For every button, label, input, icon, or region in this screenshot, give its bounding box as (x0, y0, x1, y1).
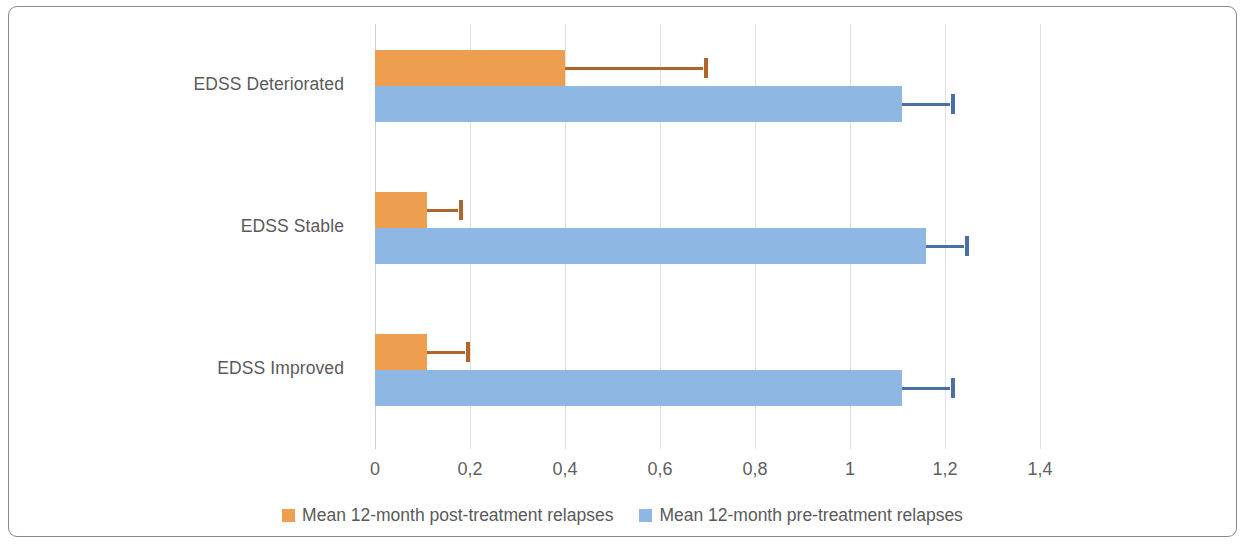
error-bar-stem (926, 245, 964, 248)
legend-swatch-icon-pre-treatment (639, 509, 652, 522)
error-bar-stem (427, 209, 458, 212)
error-bar-stem (427, 351, 465, 354)
error-bar-pre-treatment-edss-stable (926, 228, 969, 264)
legend-item-pre-treatment[interactable]: Mean 12-month pre-treatment relapses (639, 505, 962, 526)
error-bar-pre-treatment-edss-deteriorated (902, 86, 954, 122)
error-bar-cap (466, 342, 470, 362)
gridline-1-4 (1040, 24, 1041, 449)
x-tick-1-4: 1,4 (1027, 459, 1052, 480)
bar-post-treatment-edss-improved[interactable] (375, 334, 427, 370)
legend-label-post-treatment: Mean 12-month post-treatment relapses (302, 505, 613, 526)
bar-post-treatment-edss-deteriorated[interactable] (375, 50, 565, 86)
category-axis: EDSS Deteriorated EDSS Stable EDSS Impro… (0, 24, 360, 449)
bar-pre-treatment-edss-improved[interactable] (375, 370, 902, 406)
error-bar-pre-treatment-edss-improved (902, 370, 954, 406)
error-bar-cap (965, 236, 969, 256)
error-bar-cap (951, 94, 955, 114)
error-bar-post-treatment-edss-stable (427, 192, 463, 228)
bar-pre-treatment-edss-deteriorated[interactable] (375, 86, 902, 122)
category-label-edss-deteriorated: EDSS Deteriorated (193, 74, 344, 95)
category-label-edss-improved: EDSS Improved (217, 358, 344, 379)
legend-item-post-treatment[interactable]: Mean 12-month post-treatment relapses (282, 505, 613, 526)
x-tick-0: 0 (370, 459, 380, 480)
bar-post-treatment-edss-stable[interactable] (375, 192, 427, 228)
x-tick-0-8: 0,8 (742, 459, 767, 480)
chart-figure: EDSS Deteriorated EDSS Stable EDSS Impro… (0, 0, 1245, 544)
x-tick-0-4: 0,4 (552, 459, 577, 480)
error-bar-cap (951, 378, 955, 398)
legend-swatch-icon-post-treatment (282, 509, 295, 522)
error-bar-stem (902, 103, 949, 106)
chart-legend: Mean 12-month post-treatment relapses Me… (0, 505, 1245, 526)
error-bar-post-treatment-edss-deteriorated (565, 50, 708, 86)
x-tick-0-2: 0,2 (457, 459, 482, 480)
plot-area (375, 24, 1040, 449)
category-label-edss-stable: EDSS Stable (241, 216, 344, 237)
x-tick-1: 1 (845, 459, 855, 480)
bar-pre-treatment-edss-stable[interactable] (375, 228, 926, 264)
error-bar-stem (902, 387, 949, 390)
error-bar-cap (459, 200, 463, 220)
error-bar-post-treatment-edss-improved (427, 334, 470, 370)
legend-label-pre-treatment: Mean 12-month pre-treatment relapses (659, 505, 962, 526)
error-bar-stem (565, 67, 703, 70)
x-axis: 0 0,2 0,4 0,6 0,8 1 1,2 1,4 (375, 449, 1040, 489)
x-tick-0-6: 0,6 (647, 459, 672, 480)
x-tick-1-2: 1,2 (932, 459, 957, 480)
error-bar-cap (704, 58, 708, 78)
